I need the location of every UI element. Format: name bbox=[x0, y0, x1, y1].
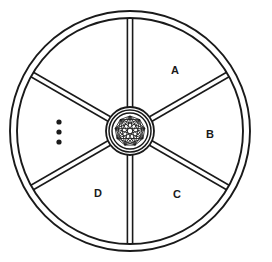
wheel-diagram-figure: A B C D bbox=[0, 0, 272, 262]
sector-label-b: B bbox=[206, 128, 214, 140]
ellipsis-dot-1 bbox=[56, 119, 61, 124]
sector-label-d: D bbox=[94, 187, 102, 199]
ellipsis-dot-2 bbox=[56, 129, 61, 134]
sector-label-a: A bbox=[171, 64, 179, 76]
ellipsis-dot-3 bbox=[56, 139, 61, 144]
vertical-ellipsis-icon bbox=[56, 119, 61, 144]
wheel-diagram-canvas: A B C D bbox=[0, 0, 272, 262]
sector-label-c: C bbox=[173, 188, 181, 200]
